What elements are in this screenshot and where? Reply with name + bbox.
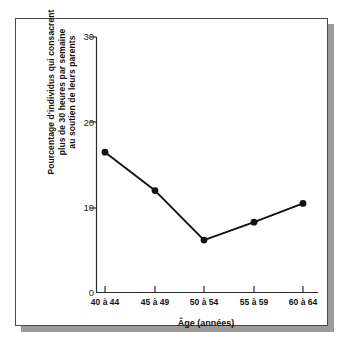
series-pourcentage-d-individus	[102, 149, 307, 244]
y-axis-ticks	[90, 37, 97, 208]
series-markers	[102, 149, 307, 244]
data-point-45-à-49	[152, 187, 159, 194]
series-line	[105, 152, 303, 240]
axis-lines	[97, 37, 319, 293]
data-point-60-à-64	[300, 200, 307, 207]
plot-area	[0, 0, 348, 357]
x-axis-ticks	[105, 286, 303, 293]
data-point-50-à-54	[201, 237, 208, 244]
data-point-55-à-59	[251, 219, 258, 226]
line-chart: Pourcentage d'individus qui consacrent p…	[0, 0, 348, 357]
data-point-40-à-44	[102, 149, 109, 156]
figure-root: Pourcentage d'individus qui consacrent p…	[0, 0, 348, 357]
